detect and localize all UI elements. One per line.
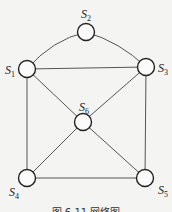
node-s3 (138, 59, 155, 76)
edge-s3-s6 (83, 67, 146, 122)
node-label-s4: S4 (9, 185, 19, 201)
edge-s2-s3 (86, 32, 146, 67)
node-s2 (78, 24, 95, 41)
edge-s3-s5 (145, 67, 146, 178)
node-label-s5: S5 (158, 183, 168, 199)
node-s5 (137, 170, 154, 187)
node-label-s2: S2 (81, 7, 91, 23)
edge-s1-s6 (27, 69, 83, 122)
node-label-s6: S6 (79, 100, 89, 116)
node-label-s3: S3 (158, 61, 168, 77)
node-label-s1: S1 (5, 63, 15, 79)
edge-s4-s6 (27, 122, 83, 178)
node-s1 (19, 61, 36, 78)
node-s4 (19, 170, 36, 187)
figure-caption: 图 6.11 网络图 (52, 206, 121, 212)
edge-s1-s3 (27, 67, 146, 69)
edges-group (27, 32, 146, 178)
network-graph-diagram: S1S2S3S4S5S6 图 6.11 网络图 (0, 0, 172, 212)
nodes-group (19, 24, 155, 187)
node-s6 (75, 114, 92, 131)
edge-s5-s6 (83, 122, 145, 178)
edge-s1-s2 (27, 32, 86, 69)
